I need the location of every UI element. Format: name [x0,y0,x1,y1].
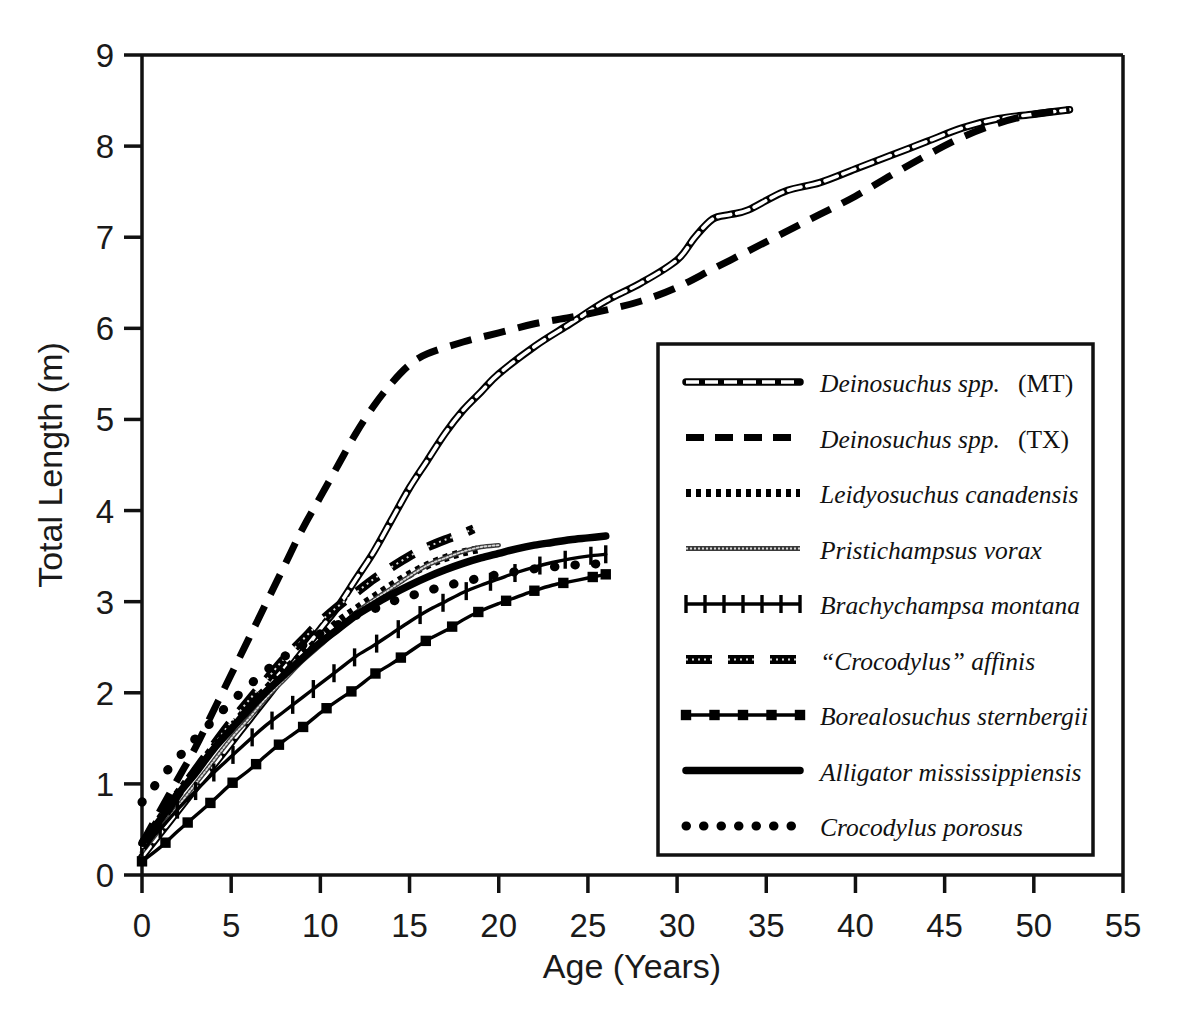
y-tick-label: 8 [96,128,114,165]
legend-item-label: Alligator mississippiensis [818,758,1081,787]
x-tick-label: 5 [222,907,240,944]
y-tick-label: 6 [96,310,114,347]
legend-taxon-name: Pristichampsus vorax [819,536,1042,565]
legend-item-label: Deinosuchus spp.(MT) [819,369,1073,398]
y-tick-label: 2 [96,675,114,712]
legend-item-label: Leidyosuchus canadensis [819,480,1079,509]
chart-canvas: 0123456789 0510152025303540455055 Total … [0,0,1188,1019]
legend-taxon-name: Leidyosuchus canadensis [819,480,1079,509]
legend-locality-tag: (MT) [1018,369,1073,398]
x-tick-label: 0 [133,907,151,944]
x-tick-label: 35 [748,907,785,944]
y-tick-label: 7 [96,219,114,256]
x-tick-label: 10 [302,907,339,944]
y-tick-label: 1 [96,766,114,803]
y-tick-label: 4 [96,493,114,530]
legend-item-label: Brachychampsa montana [820,591,1080,620]
legend-locality-tag: (TX) [1018,425,1069,454]
y-tick-label: 0 [96,857,114,894]
y-axis-title: Total Length (m) [31,342,69,588]
legend-taxon-name: Crocodylus porosus [820,813,1023,842]
growth-curve-figure: 0123456789 0510152025303540455055 Total … [0,0,1188,1019]
x-tick-label: 40 [837,907,874,944]
legend-item-label: Deinosuchus spp.(TX) [819,425,1069,454]
y-tick-label: 9 [96,37,114,74]
chart-legend: Deinosuchus spp.(MT)Deinosuchus spp.(TX)… [658,344,1093,855]
legend-item-label: Pristichampsus vorax [819,536,1042,565]
x-tick-label: 50 [1015,907,1052,944]
legend-taxon-name: Alligator mississippiensis [818,758,1081,787]
legend-taxon-name: Deinosuchus spp. [819,369,1000,398]
legend-taxon-name: Brachychampsa montana [820,591,1080,620]
legend-item-label: “Crocodylus” affinis [820,647,1035,676]
x-tick-label: 25 [570,907,607,944]
legend-item-label: Crocodylus porosus [820,813,1023,842]
x-tick-label: 45 [926,907,963,944]
legend-taxon-name: Deinosuchus spp. [819,425,1000,454]
x-tick-label: 30 [659,907,696,944]
x-tick-label: 20 [480,907,517,944]
legend-taxon-name: “Crocodylus” affinis [820,647,1035,676]
y-tick-label: 3 [96,584,114,621]
legend-item-label: Borealosuchus sternbergii [820,702,1088,731]
legend-taxon-name: Borealosuchus sternbergii [820,702,1088,731]
x-tick-label: 15 [391,907,428,944]
x-axis-title: Age (Years) [543,947,721,985]
x-tick-label: 55 [1105,907,1142,944]
y-tick-label: 5 [96,401,114,438]
